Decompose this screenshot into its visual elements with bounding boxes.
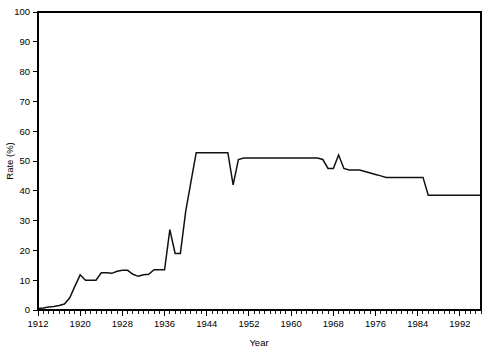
y-tick-label: 80	[19, 66, 30, 77]
y-tick-label: 90	[19, 36, 30, 47]
data-series-rate	[38, 153, 481, 309]
x-tick-label: 1968	[323, 318, 344, 329]
y-axis-ticks: 0102030405060708090100	[14, 6, 38, 315]
plot-area	[38, 12, 481, 310]
x-tick-label: 1944	[196, 318, 217, 329]
x-tick-label: 1960	[281, 318, 302, 329]
x-tick-label: 1976	[365, 318, 386, 329]
y-tick-label: 60	[19, 126, 30, 137]
y-tick-label: 10	[19, 275, 30, 286]
x-tick-label: 1920	[70, 318, 91, 329]
x-tick-label: 1928	[112, 318, 133, 329]
x-tick-label: 1984	[407, 318, 428, 329]
line-chart: 0102030405060708090100 19121920192819361…	[0, 0, 496, 353]
x-axis-ticks: 1912192019281936194419521960196819761984…	[27, 310, 470, 329]
y-tick-label: 100	[14, 6, 30, 17]
y-tick-label: 50	[19, 155, 30, 166]
chart-container: 0102030405060708090100 19121920192819361…	[0, 0, 496, 353]
x-tick-label: 1912	[27, 318, 48, 329]
y-tick-label: 40	[19, 185, 30, 196]
x-tick-label: 1992	[449, 318, 470, 329]
y-tick-label: 70	[19, 96, 30, 107]
y-tick-label: 0	[25, 304, 30, 315]
x-axis-title: Year	[249, 337, 268, 348]
y-tick-label: 20	[19, 245, 30, 256]
plot-frame	[38, 12, 481, 310]
x-tick-label: 1952	[238, 318, 259, 329]
y-axis-title: Rate (%)	[4, 142, 15, 179]
x-tick-label: 1936	[154, 318, 175, 329]
y-tick-label: 30	[19, 215, 30, 226]
